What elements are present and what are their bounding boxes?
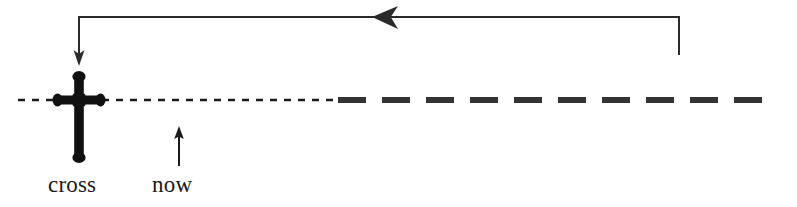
- now-label: now: [152, 172, 192, 198]
- diagram-canvas: cross now: [0, 0, 797, 207]
- return-arrow-group: [74, 6, 681, 66]
- cross-label: cross: [48, 172, 96, 198]
- cross-marker-icon: [53, 71, 106, 163]
- diagram-svg: [0, 0, 797, 207]
- now-pointer-group: [174, 126, 184, 166]
